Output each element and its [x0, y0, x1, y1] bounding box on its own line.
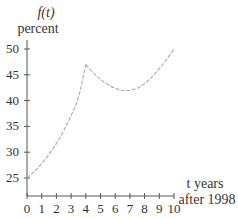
- y-tick-label: 35: [6, 118, 19, 133]
- data-curve: [27, 49, 174, 178]
- x-tick-label: 0: [24, 201, 31, 216]
- y-tick-label: 50: [6, 41, 19, 56]
- x-tick-label: 6: [112, 201, 119, 216]
- x-tick-label: 8: [141, 201, 148, 216]
- y-tick-label: 40: [6, 93, 19, 108]
- x-tick-label: 5: [97, 201, 104, 216]
- x-axis-label-reference: after 1998: [178, 192, 235, 207]
- y-tick-label: 45: [6, 67, 19, 82]
- axes: [27, 40, 174, 196]
- x-tick-label: 7: [127, 201, 134, 216]
- y-axis-label-unit: percent: [17, 21, 58, 36]
- y-tick-label: 30: [6, 144, 19, 159]
- x-tick-label: 4: [83, 201, 90, 216]
- x-tick-label: 2: [53, 201, 60, 216]
- y-tick-label: 25: [6, 170, 19, 185]
- y-axis-label-function: f(t): [37, 5, 54, 21]
- x-tick-label: 1: [38, 201, 45, 216]
- x-tick-label: 3: [68, 201, 75, 216]
- x-tick-label: 9: [156, 201, 163, 216]
- tick-marks: [24, 49, 174, 199]
- x-axis-label-variable: t years: [187, 176, 224, 191]
- chart-canvas: 012345678910253035404550 f(t) percent t …: [0, 0, 238, 219]
- tick-labels: 012345678910253035404550: [6, 41, 181, 216]
